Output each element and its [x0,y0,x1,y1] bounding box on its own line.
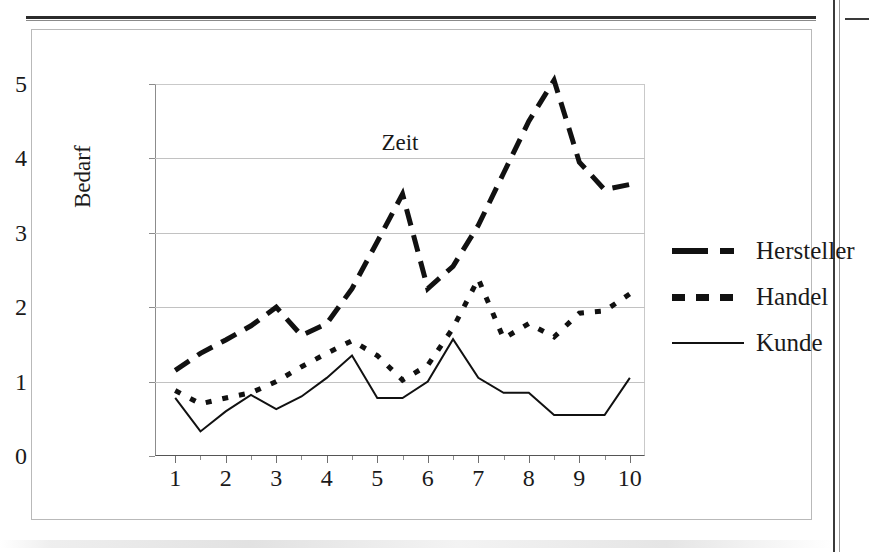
x-axis-ticks-group: 12345678910 [155,456,645,536]
y-tick-label: 2 [15,294,27,321]
x-minor-tick-mark [352,456,353,460]
series-line-kunde [175,339,630,431]
series-plot-svg [155,84,645,456]
x-tick-mark-8 [529,456,530,463]
x-tick-mark-6 [428,456,429,463]
y-axis-title: Bedarf [70,145,96,208]
x-tick-mark-4 [327,456,328,463]
x-tick-label: 1 [169,465,181,492]
x-tick-mark-1 [175,456,176,463]
thick-short-dash-key [672,287,750,307]
scan-bottom-smudge [0,540,833,548]
x-minor-tick-mark [605,456,606,460]
x-tick-mark-3 [276,456,277,463]
series-line-hersteller [175,80,630,370]
x-tick-label: 6 [422,465,434,492]
page-right-tick-mark [845,18,869,20]
x-minor-tick-mark [301,456,302,460]
y-tick-label: 0 [15,443,27,470]
x-tick-label: 5 [371,465,383,492]
legend-item-hersteller: Hersteller [672,228,869,274]
y-tick-label: 4 [15,145,27,172]
x-minor-tick-mark [453,456,454,460]
y-tick-label: 3 [15,219,27,246]
x-tick-label: 10 [618,465,642,492]
page-top-rule [26,16,816,19]
series-line-handel [175,279,630,404]
x-tick-mark-9 [579,456,580,463]
thin-solid-key [672,333,750,353]
x-tick-label: 8 [523,465,535,492]
x-minor-tick-mark [200,456,201,460]
y-tick-label: 5 [15,71,27,98]
x-tick-label: 9 [573,465,585,492]
x-tick-mark-2 [226,456,227,463]
thick-long-dash-key [672,241,750,261]
legend-label: Kunde [756,329,823,357]
x-tick-mark-5 [377,456,378,463]
x-tick-label: 4 [321,465,333,492]
legend-label: Hersteller [756,237,855,265]
x-minor-tick-mark [403,456,404,460]
x-minor-tick-mark [554,456,555,460]
x-tick-label: 2 [220,465,232,492]
chart-legend: HerstellerHandelKunde [672,228,869,366]
x-tick-mark-10 [630,456,631,463]
plot-area-wrapper: 012345 12345678910 Zeit [155,84,645,456]
x-tick-mark-7 [478,456,479,463]
legend-item-kunde: Kunde [672,320,869,366]
x-tick-label: 3 [270,465,282,492]
x-tick-label: 7 [472,465,484,492]
x-minor-tick-mark [251,456,252,460]
x-minor-tick-mark [504,456,505,460]
chart-figure-frame: Bedarf 012345 12345678910 Zeit Herstelle… [31,29,812,520]
legend-label: Handel [756,283,828,311]
legend-item-handel: Handel [672,274,869,320]
y-tick-label: 1 [15,368,27,395]
